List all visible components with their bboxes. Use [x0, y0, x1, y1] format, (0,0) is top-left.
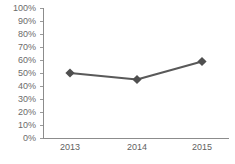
y-axis-label-40: 40%	[18, 81, 36, 91]
line-chart-figure: 100% 90% 80% 70% 60% 50% 40% 30% 20% 10%…	[0, 0, 235, 164]
x-axis-label-2013: 2013	[60, 142, 80, 152]
y-axis-label-0: 0%	[23, 133, 36, 143]
y-axis-label-60: 60%	[18, 55, 36, 65]
y-axis-label-50: 50%	[18, 68, 36, 78]
x-axis-label-2014: 2014	[127, 142, 147, 152]
y-axis-label-20: 20%	[18, 107, 36, 117]
y-axis-label-10: 10%	[18, 120, 36, 130]
y-axis-label-90: 90%	[18, 16, 36, 26]
y-axis-label-30: 30%	[18, 94, 36, 104]
y-axis-label-80: 80%	[18, 29, 36, 39]
y-axis-label-70: 70%	[18, 42, 36, 52]
chart-canvas: 100% 90% 80% 70% 60% 50% 40% 30% 20% 10%…	[0, 0, 235, 164]
y-axis-label-100: 100%	[13, 3, 36, 13]
x-axis-label-2015: 2015	[192, 142, 212, 152]
